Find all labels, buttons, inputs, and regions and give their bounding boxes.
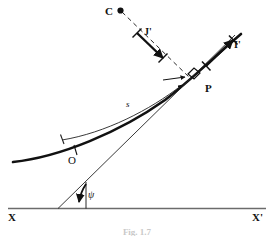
figure-drawing	[0, 0, 274, 236]
point-C-dot	[117, 7, 123, 13]
figure-container: C J' I' P s O ψ X X' Fig. 1.7	[0, 0, 274, 236]
label-point-C: C	[105, 6, 113, 17]
normal-dashed-line	[122, 12, 190, 78]
tangent-line	[58, 35, 235, 209]
label-normal-unit-vector: J'	[144, 27, 152, 37]
arc-length-start-tick	[61, 135, 65, 145]
arc-length-curve	[62, 85, 182, 140]
label-point-P: P	[205, 83, 212, 94]
label-point-O: O	[68, 155, 76, 166]
label-arc-length: s	[126, 100, 130, 109]
figure-caption: Fig. 1.7	[0, 228, 274, 236]
label-tangent-angle: ψ	[88, 190, 94, 200]
normal-arrow-into-P	[163, 77, 185, 80]
main-curve	[13, 34, 241, 162]
label-axis-right: X'	[252, 212, 263, 223]
label-tangent-unit-vector: I'	[234, 40, 241, 50]
tangent-unit-vector-Iprime	[206, 40, 233, 66]
label-axis-left: X	[8, 212, 16, 223]
